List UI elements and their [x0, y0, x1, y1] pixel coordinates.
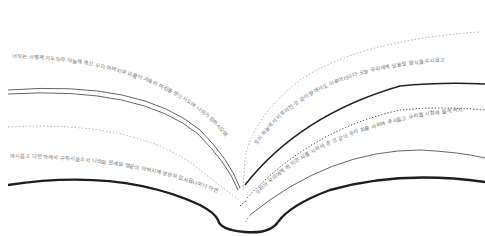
left-page-edge-line — [8, 93, 238, 190]
right-page-dotted-line — [245, 215, 250, 222]
left-page: 너희는 이렇게 기도하라 하늘에 계신 우리 아버지여 이름이 거룩히 여김을 … — [8, 52, 278, 232]
right-cover-edge — [278, 178, 485, 223]
spine-dotted-line — [240, 200, 247, 206]
right-page-dotted-line — [247, 108, 485, 198]
open-book-illustration: 너희는 이렇게 기도하라 하늘에 계신 우리 아버지여 이름이 거룩히 여김을 … — [0, 0, 485, 236]
left-page-text-line: 마시옵고 다만 악에서 구하시옵소서 나라와 권세와 영광이 아버지께 영원히 … — [10, 152, 220, 194]
right-page: 뜻이 하늘에서 이루어진 것 같이 땅에서도 이루어지이다 오늘 우리에게 일용… — [245, 57, 485, 222]
left-page-edge-line — [8, 88, 240, 188]
left-page-text-line: 너희는 이렇게 기도하라 하늘에 계신 우리 아버지여 이름이 거룩히 여김을 … — [12, 52, 230, 139]
